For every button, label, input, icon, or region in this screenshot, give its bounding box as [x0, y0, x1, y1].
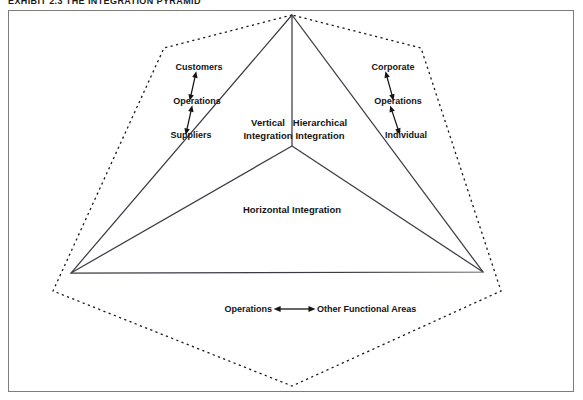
vertical-integration-label-line1: Vertical: [251, 117, 285, 128]
chain-label-corporate: Corporate: [371, 62, 414, 72]
horizontal-integration-label: Horizontal Integration: [243, 204, 341, 215]
arrow-operations-suppliers: [187, 111, 191, 129]
hierarchical-integration-label-line1: Hierarchical: [293, 117, 347, 128]
chain-label-individual: Individual: [385, 130, 427, 140]
inner-pyramid: [71, 15, 483, 273]
center-labels: Vertical Integration Hierarchical Integr…: [243, 117, 347, 141]
arrow-corporate-operations: [387, 77, 392, 95]
exhibit-title: EXHIBIT 2.3 THE INTEGRATION PYRAMID: [8, 0, 201, 6]
vertical-integration-label-line2: Integration: [243, 130, 292, 141]
chain-label-suppliers: Suppliers: [170, 130, 211, 140]
operations-functional-areas-relation: Operations Other Functional Areas: [224, 304, 416, 314]
arrow-operations-individual: [392, 111, 398, 129]
bottom-label-operations: Operations: [224, 304, 272, 314]
diagram-frame: Vertical Integration Hierarchical Integr…: [8, 10, 574, 392]
outer-hexagon: [53, 15, 501, 386]
hierarchical-integration-chain: Corporate Operations Individual: [371, 62, 427, 140]
chain-label-operations-left: Operations: [173, 96, 221, 106]
bottom-label-other-functional-areas: Other Functional Areas: [317, 304, 416, 314]
integration-pyramid-diagram: Vertical Integration Hierarchical Integr…: [9, 11, 573, 391]
chain-label-operations-right: Operations: [374, 96, 422, 106]
arrow-customers-operations: [191, 77, 195, 95]
chain-label-customers: Customers: [175, 62, 222, 72]
vertical-integration-chain: Customers Operations Suppliers: [170, 62, 222, 140]
hierarchical-integration-label-line2: Integration: [295, 130, 344, 141]
